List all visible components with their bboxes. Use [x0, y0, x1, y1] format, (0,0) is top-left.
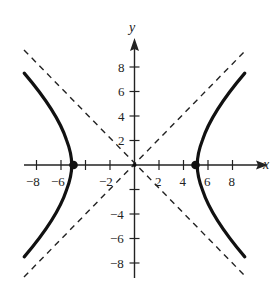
x-tick-label: −2 — [99, 174, 113, 189]
x-tick-label: 2 — [155, 174, 162, 189]
origin-point — [133, 163, 137, 167]
y-tick-label: −8 — [110, 256, 124, 271]
vertex-right-point — [191, 161, 200, 170]
y-tick-label: −6 — [110, 231, 124, 246]
hyperbola-graph: x y −8 −6 −2 2 4 6 8 8 6 4 2 −4 −6 −8 — [0, 0, 279, 287]
x-tick-label: −8 — [26, 174, 40, 189]
y-axis-label: y — [127, 20, 136, 35]
y-tick-label: 4 — [118, 109, 125, 124]
x-axis-label: x — [262, 157, 270, 172]
y-tick-label: 8 — [118, 60, 125, 75]
x-tick-label: 6 — [204, 174, 211, 189]
y-tick-label: −4 — [110, 207, 124, 222]
y-tick-label: 2 — [118, 133, 125, 148]
x-tick-label: −6 — [51, 174, 65, 189]
y-tick-label: 6 — [118, 84, 125, 99]
x-tick-label: 8 — [229, 174, 236, 189]
vertex-left-point — [69, 161, 78, 170]
x-tick-label: 4 — [180, 174, 187, 189]
